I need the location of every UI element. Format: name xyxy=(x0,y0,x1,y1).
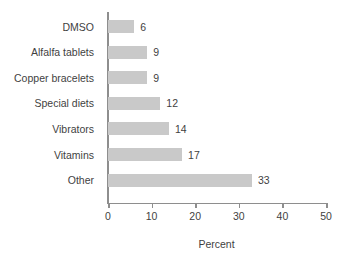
bar-chart-figure: DMSO6Alfalfa tablets9Copper bracelets9Sp… xyxy=(0,0,347,268)
category-label: Alfalfa tablets xyxy=(0,47,94,58)
category-label: Other xyxy=(0,175,94,186)
x-axis-tick-label: 30 xyxy=(233,211,245,222)
bar xyxy=(108,97,160,110)
bar-value-label: 6 xyxy=(140,21,146,32)
bar-row: 14 xyxy=(108,122,326,135)
x-axis-tick-label: 10 xyxy=(146,211,158,222)
bar xyxy=(108,46,147,59)
x-axis-tick xyxy=(195,203,197,208)
bar-row: 6 xyxy=(108,20,326,33)
x-axis-tick-label: 40 xyxy=(277,211,289,222)
category-label: Copper bracelets xyxy=(0,72,94,83)
bar xyxy=(108,20,134,33)
bar xyxy=(108,71,147,84)
bar-row: 9 xyxy=(108,71,326,84)
x-axis-tick xyxy=(282,203,284,208)
bar-row: 33 xyxy=(108,174,326,187)
x-axis-tick xyxy=(239,203,241,208)
bar-value-label: 9 xyxy=(153,72,159,83)
x-axis-tick xyxy=(152,203,154,208)
bar xyxy=(108,122,169,135)
category-label: Special diets xyxy=(0,98,94,109)
bar-row: 9 xyxy=(108,46,326,59)
category-label: DMSO xyxy=(0,21,94,32)
bar xyxy=(108,148,182,161)
bar-value-label: 33 xyxy=(258,175,270,186)
category-label: Vibrators xyxy=(0,124,94,135)
bar-value-label: 14 xyxy=(175,124,187,135)
bar-value-label: 9 xyxy=(153,47,159,58)
bar-value-label: 17 xyxy=(188,149,200,160)
x-axis-tick xyxy=(108,203,110,208)
bar-row: 12 xyxy=(108,97,326,110)
bar-value-label: 12 xyxy=(166,98,178,109)
x-axis-tick-label: 50 xyxy=(320,211,332,222)
x-axis-tick-label: 20 xyxy=(189,211,201,222)
bar-row: 17 xyxy=(108,148,326,161)
x-axis-title: Percent xyxy=(107,239,326,250)
x-axis-line xyxy=(107,203,326,205)
category-label: Vitamins xyxy=(0,149,94,160)
x-axis-tick xyxy=(326,203,328,208)
bar xyxy=(108,174,252,187)
x-axis-tick-label: 0 xyxy=(105,211,111,222)
